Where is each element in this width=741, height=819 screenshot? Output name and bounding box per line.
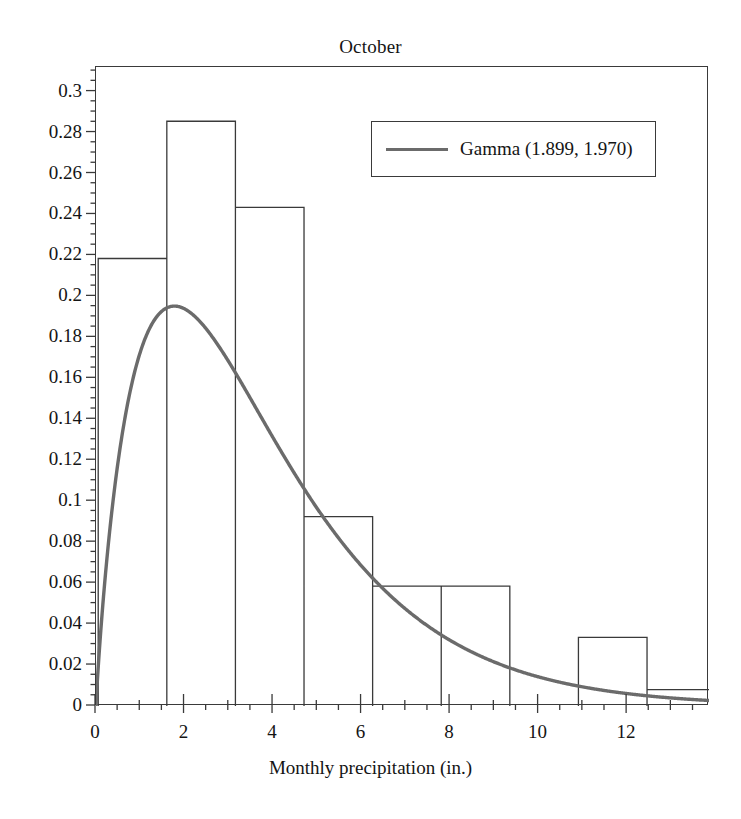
- legend-box: Gamma (1.899, 1.970): [371, 121, 656, 177]
- x-tick-label: 12: [617, 722, 636, 741]
- x-tick-label: 6: [356, 722, 366, 741]
- legend-line-swatch: [386, 148, 448, 151]
- x-tick-label: 2: [179, 722, 189, 741]
- x-tick-label: 0: [90, 722, 100, 741]
- x-tick-label: 4: [267, 722, 277, 741]
- x-tick-label: 8: [444, 722, 454, 741]
- x-tick-label: 10: [528, 722, 547, 741]
- legend-entry-label: Gamma (1.899, 1.970): [460, 138, 633, 160]
- chart-figure: October 00.020.040.060.080.10.120.140.16…: [0, 0, 741, 819]
- x-axis-title: Monthly precipitation (in.): [0, 757, 741, 779]
